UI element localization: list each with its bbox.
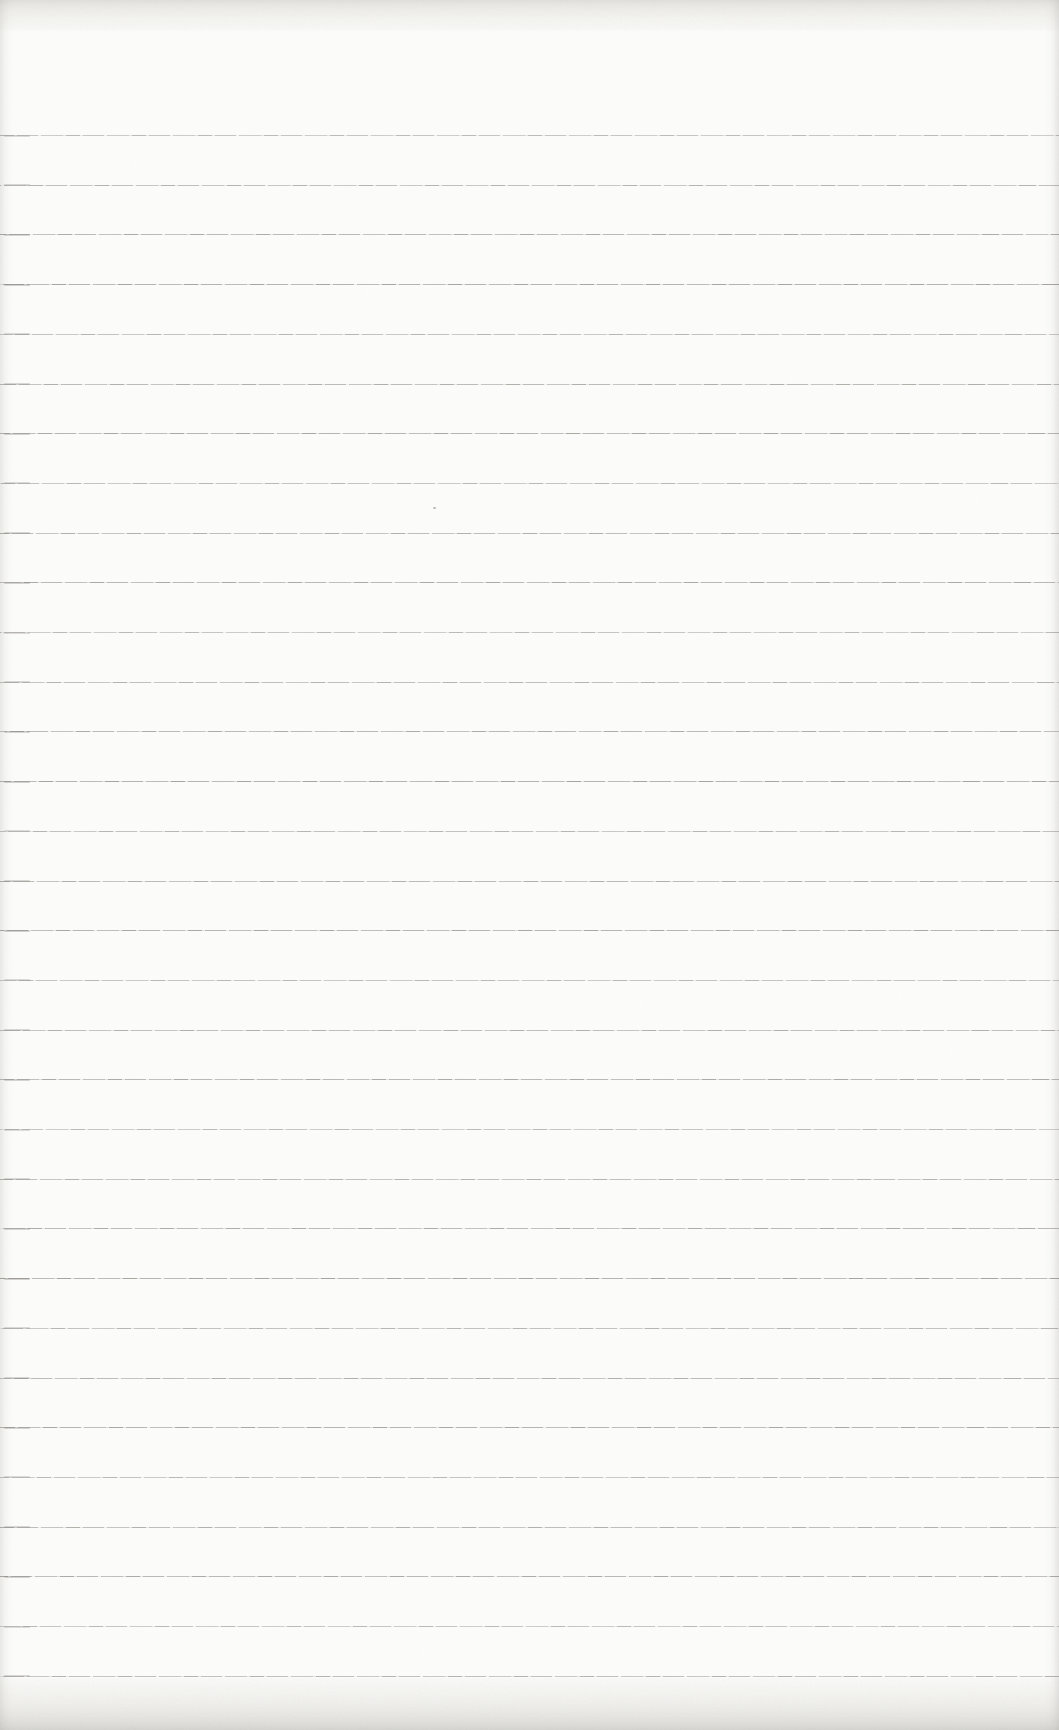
ruled-line (0, 1527, 1059, 1528)
ruled-line (0, 1427, 1059, 1428)
ruled-line (0, 1676, 1059, 1677)
ruled-line (0, 1328, 1059, 1329)
ruled-line (0, 1228, 1059, 1229)
ruled-line (0, 1477, 1059, 1478)
paper-speck (433, 507, 436, 509)
ruled-lines (0, 0, 1059, 1730)
ruled-line (0, 483, 1059, 484)
ruled-line (0, 284, 1059, 285)
ruled-line (0, 185, 1059, 186)
ruled-line (0, 533, 1059, 534)
ruled-line (0, 781, 1059, 782)
ruled-line (0, 1179, 1059, 1180)
ruled-line (0, 682, 1059, 683)
ruled-line (0, 384, 1059, 385)
ruled-line (0, 1378, 1059, 1379)
ruled-line (0, 334, 1059, 335)
ruled-line (0, 831, 1059, 832)
ruled-line (0, 135, 1059, 136)
ruled-line (0, 582, 1059, 583)
notebook-page (0, 0, 1059, 1730)
ruled-line (0, 731, 1059, 732)
ruled-line (0, 1129, 1059, 1130)
ruled-line (0, 1278, 1059, 1279)
ruled-line (0, 234, 1059, 235)
ruled-line (0, 881, 1059, 882)
ruled-line (0, 632, 1059, 633)
ruled-line (0, 930, 1059, 931)
ruled-line (0, 980, 1059, 981)
ruled-line (0, 1030, 1059, 1031)
ruled-line (0, 1576, 1059, 1577)
ruled-line (0, 433, 1059, 434)
ruled-line (0, 1626, 1059, 1627)
ruled-line (0, 1079, 1059, 1080)
